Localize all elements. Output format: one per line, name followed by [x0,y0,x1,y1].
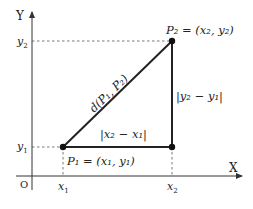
hypotenuse-label: d(P₁, P₂) [86,72,131,116]
y2-tick-label: y2 [16,35,28,50]
distance-diagram: Y X O y2 y1 x1 x2 P₂ = (x₂, y₂) P₁ = (x₁… [0,0,253,209]
p2-label: P₂ = (x₂, y₂) [165,23,234,37]
horizontal-leg-label: |x₂ − x₁| [100,127,147,142]
x1-tick-label: x1 [58,180,69,195]
y1-tick-label: y1 [16,140,28,155]
x2-tick-label: x2 [167,180,178,195]
point-p2 [169,38,175,44]
point-p1 [60,144,66,150]
y-axis-label: Y [15,9,25,23]
point-corner [169,144,175,150]
p1-label: P₁ = (x₁, y₁) [66,154,135,168]
origin-label: O [20,179,28,190]
x-axis-label: X [229,161,238,175]
vertical-leg-label: |y₂ − y₁| [176,89,223,104]
